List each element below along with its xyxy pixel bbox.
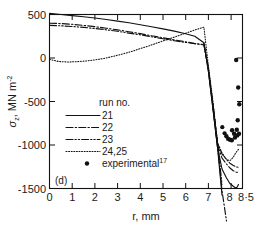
y-axis-title-exponent: -2: [6, 75, 13, 81]
data-point: [237, 132, 241, 136]
data-point: [237, 102, 241, 106]
data-point: [235, 128, 239, 132]
experimental-data-points: [220, 58, 241, 143]
x-tick-label-6: 6: [183, 191, 189, 203]
legend-label-24-25: 24,25: [102, 146, 127, 157]
legend-label-experimental-ref: 17: [159, 157, 167, 164]
x-tick-label-3: 3: [115, 191, 121, 203]
figure-container: 500 0 -500 -1000 -1500 0 1 2 3 4 5 6 7 8…: [0, 0, 271, 229]
x-tick-label-7: 7: [205, 191, 211, 203]
y-axis-ticks-left: [50, 15, 56, 189]
x-tick-label-5: 5: [160, 191, 166, 203]
series-line-21-lower: [204, 43, 239, 188]
y-tick-label-0: 0: [40, 52, 46, 64]
data-point: [236, 85, 240, 89]
x-axis-ticks-bottom: [50, 183, 243, 189]
y-tick-label-minus500: -500: [24, 96, 46, 108]
stress-vs-radius-chart: 500 0 -500 -1000 -1500 0 1 2 3 4 5 6 7 8…: [0, 0, 271, 229]
legend-label-23: 23: [102, 134, 114, 145]
x-tick-label-8-5: 8·5: [238, 191, 254, 203]
y-tick-label-minus1500: -1500: [18, 183, 46, 195]
legend: run no. 21 22 23 24,25 experimental17: [66, 97, 167, 169]
legend-label-experimental: experimental17: [102, 157, 167, 169]
legend-label-experimental-text: experimental: [102, 158, 159, 169]
x-tick-label-1: 1: [69, 191, 75, 203]
legend-label-21: 21: [102, 110, 114, 121]
x-tick-label-4: 4: [137, 191, 143, 203]
series-line-24-25: [50, 27, 239, 161]
y-axis-title: σz, MN m-2: [6, 75, 20, 127]
svg-text:σz, MN m-2: σz, MN m-2: [6, 75, 20, 127]
legend-label-22: 22: [102, 122, 114, 133]
x-axis-ticks-top: [72, 15, 242, 21]
data-point: [220, 125, 224, 129]
panel-label: (d): [55, 175, 67, 186]
data-point: [236, 118, 240, 122]
x-tick-label-0: 0: [46, 191, 52, 203]
y-axis-title-units: , MN m: [6, 82, 18, 117]
y-tick-label-500: 500: [28, 9, 46, 21]
data-point: [234, 58, 238, 62]
x-axis-title: r, mm: [132, 210, 160, 222]
x-tick-label-2: 2: [92, 191, 98, 203]
y-tick-label-minus1000: -1000: [18, 139, 46, 151]
legend-title: run no.: [99, 97, 130, 108]
legend-swatch-experimental: [85, 161, 89, 165]
x-tick-label-8: 8: [226, 191, 232, 203]
